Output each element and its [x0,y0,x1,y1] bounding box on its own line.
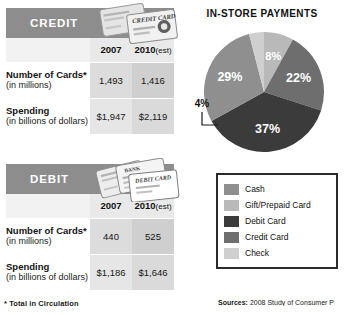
sources-text: 2008 Study of Consumer P [250,299,334,306]
debit-row1-label: Spending (in billions of dollars) [6,254,90,290]
debit-row1-value-2007: $1,186 [90,254,132,290]
credit-row0-value-2007: 1,493 [90,62,132,98]
legend-item-check: Check [224,245,331,261]
credit-row0-label: Number of Cards* (in millions) [6,62,90,98]
legend-label-check: Check [245,248,269,259]
debit-row1-value-2010: $1,646 [132,254,174,290]
callout-leader-line [202,112,218,125]
credit-year-2010-est: (est) [156,46,172,55]
circulation-footnote: * Total in Circulation [4,299,79,308]
credit-year-header-row: 2007 2010(est) [6,38,174,62]
legend-item-cash: Cash [224,181,331,197]
credit-row1-label: Spending (in billions of dollars) [6,98,90,134]
legend-item-credit-card: Credit Card [224,229,331,245]
credit-row1-value-2007: $1,947 [90,98,132,134]
credit-year-2007-label: 2007 [100,44,121,55]
credit-table-header: CREDIT CREDIT CARD [6,8,174,38]
legend-label-gift-prepaid-card: Gift/Prepaid Card [245,200,311,211]
debit-row0-label: Number of Cards* (in millions) [6,218,90,254]
pie-slice-label-credit-card: 22% [286,71,311,85]
credit-header-spacer [6,38,90,62]
legend-item-gift-prepaid-card: Gift/Prepaid Card [224,197,331,213]
credit-year-2007: 2007 [90,38,132,62]
credit-year-2010-label: 2010 [134,44,155,55]
credit-row0-value-2010: 1,416 [132,62,174,98]
sources-lead: Sources: [218,299,248,306]
legend-label-debit-card: Debit Card [245,216,286,227]
table-row: Spending (in billions of dollars) $1,186… [6,254,174,290]
debit-table-header: DEBIT BANK DEBIT CARD [6,164,174,194]
debit-year-2010-label: 2010 [134,200,155,211]
credit-row1-label-sub: (in billions of dollars) [6,116,90,127]
page-title: IN-STORE PAYMENTS [180,8,344,19]
debit-year-2010-est: (est) [156,202,172,211]
chart-legend: Cash Gift/Prepaid Card Debit Card Credit… [216,173,338,269]
legend-swatch-debit-card [224,216,239,227]
legend-label-cash: Cash [245,184,265,195]
debit-row0-value-2010: 525 [132,218,174,254]
debit-row1-label-sub: (in billions of dollars) [6,272,90,283]
debit-year-2007-label: 2007 [100,200,121,211]
tables-panel: CREDIT CREDIT CARD [0,0,180,315]
svg-text:DEBIT CARD: DEBIT CARD [134,174,172,184]
legend-label-credit-card: Credit Card [245,232,288,243]
debit-row0-label-main: Number of Cards* [6,225,90,236]
pie-slice-label-debit-card: 37% [255,122,280,136]
debit-year-2010: 2010(est) [132,194,174,218]
credit-table: CREDIT CREDIT CARD [6,8,174,134]
pie-slice-label-gift-prepaid-card: 8% [265,50,281,62]
legend-swatch-cash [224,184,239,195]
credit-table-grid: 2007 2010(est) Number of Cards* (in mill… [6,38,174,134]
legend-item-debit-card: Debit Card [224,213,331,229]
table-row: Number of Cards* (in millions) 1,493 1,4… [6,62,174,98]
debit-year-header-row: 2007 2010(est) [6,194,174,218]
debit-row0-value-2007: 440 [90,218,132,254]
table-row: Spending (in billions of dollars) $1,947… [6,98,174,134]
legend-swatch-gift-prepaid-card [224,200,239,211]
debit-table-grid: 2007 2010(est) Number of Cards* (in mill… [6,194,174,290]
credit-year-2010: 2010(est) [132,38,174,62]
debit-table: DEBIT BANK DEBIT CARD [6,164,174,290]
legend-swatch-check [224,248,239,259]
svg-text:CREDIT CARD: CREDIT CARD [132,12,176,24]
debit-row1-label-main: Spending [6,261,90,272]
debit-header-spacer [6,194,90,218]
credit-table-title: CREDIT [30,17,78,29]
debit-table-title: DEBIT [30,173,69,185]
legend-swatch-credit-card [224,232,239,243]
credit-row0-label-sub: (in millions) [6,80,90,91]
sources-note: Sources: 2008 Study of Consumer P [218,299,344,306]
pie-slice-label-check: 4% [195,98,210,109]
svg-text:BANK: BANK [124,165,141,174]
credit-row1-value-2010: $2,119 [132,98,174,134]
pie-slice-label-cash: 29% [217,70,242,84]
debit-row0-label-sub: (in millions) [6,236,90,247]
table-row: Number of Cards* (in millions) 440 525 [6,218,174,254]
chart-panel: IN-STORE PAYMENTS 8%22%37%29% 4% Cash Gi… [180,0,344,315]
four-percent-callout: 4% [180,95,240,140]
debit-year-2007: 2007 [90,194,132,218]
credit-row1-label-main: Spending [6,105,90,116]
credit-row0-label-main: Number of Cards* [6,69,90,80]
